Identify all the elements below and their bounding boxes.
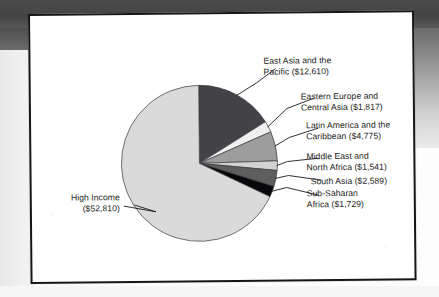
label-line-2: Central Asia ($1,817) xyxy=(301,101,383,112)
slice-label-latin-america-and-the-caribbean: Latin America and the Caribbean ($4,775) xyxy=(306,120,390,142)
label-line-1: Eastern Europe and xyxy=(301,91,378,102)
slice-label-south-asia: South Asia ($2,589) xyxy=(311,176,388,187)
label-line-2: North Africa ($1,541) xyxy=(306,161,386,172)
label-line-2: Africa ($1,729) xyxy=(307,198,364,209)
scan-margin-bottom xyxy=(0,286,439,297)
scanned-page: East Asia and the Pacific ($12,610) East… xyxy=(0,0,439,297)
label-line-2: ($52,810) xyxy=(34,203,120,214)
pie-chart: East Asia and the Pacific ($12,610) East… xyxy=(28,10,417,284)
slice-label-eastern-europe-and-central-asia: Eastern Europe and Central Asia ($1,817) xyxy=(301,91,383,113)
label-line-2: Caribbean ($4,775) xyxy=(306,130,390,141)
slice-label-sub-saharan-africa: Sub-Saharan Africa ($1,729) xyxy=(307,188,364,210)
label-line-1: High Income xyxy=(71,192,120,202)
pie-chart-svg xyxy=(28,10,417,284)
label-line-2: Pacific ($12,610) xyxy=(264,66,332,77)
chart-page-frame: East Asia and the Pacific ($12,610) East… xyxy=(28,10,417,284)
slice-label-east-asia-and-the-pacific: East Asia and the Pacific ($12,610) xyxy=(263,55,331,77)
label-line-1: Middle East and xyxy=(306,151,368,162)
label-line-1: Sub-Saharan xyxy=(307,188,358,198)
label-line-1: Latin America and the xyxy=(306,120,390,131)
slice-label-high-income: High Income ($52,810) xyxy=(34,192,120,214)
label-line-1: South Asia ($2,589) xyxy=(311,176,388,187)
label-line-1: East Asia and the xyxy=(263,55,331,66)
slice-label-middle-east-and-north-africa: Middle East and North Africa ($1,541) xyxy=(306,151,387,173)
pie-slice-group xyxy=(121,85,278,242)
